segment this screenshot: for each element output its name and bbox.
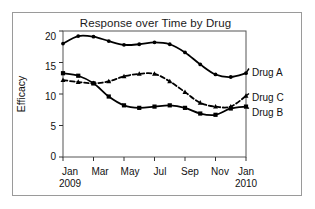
data-point-marker bbox=[61, 42, 65, 46]
data-point-marker bbox=[168, 42, 172, 46]
data-point-marker bbox=[107, 39, 111, 43]
data-point-marker bbox=[92, 35, 96, 39]
chart-axes bbox=[59, 31, 246, 161]
data-point-marker bbox=[183, 106, 187, 110]
data-point-marker bbox=[152, 105, 156, 109]
data-point-marker bbox=[122, 43, 126, 47]
chart-plot-area bbox=[0, 0, 315, 209]
series-drug-b bbox=[61, 71, 248, 117]
data-point-marker bbox=[183, 51, 187, 55]
data-point-marker bbox=[183, 89, 188, 94]
data-point-marker bbox=[76, 74, 80, 78]
data-point-marker bbox=[198, 111, 202, 115]
data-point-marker bbox=[107, 94, 111, 98]
data-point-marker bbox=[137, 106, 141, 110]
data-point-marker bbox=[229, 75, 233, 79]
data-point-marker bbox=[213, 113, 217, 117]
data-point-marker bbox=[137, 42, 141, 46]
data-point-marker bbox=[153, 40, 157, 44]
data-point-marker bbox=[198, 62, 202, 66]
data-point-marker bbox=[122, 103, 126, 107]
chart-series bbox=[61, 34, 249, 117]
data-point-marker bbox=[76, 34, 80, 38]
data-point-marker bbox=[168, 103, 172, 107]
data-point-marker bbox=[214, 73, 218, 77]
data-point-marker bbox=[61, 71, 65, 75]
